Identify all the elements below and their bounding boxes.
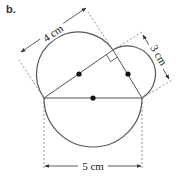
dim-label-ab: 5 cm (82, 160, 104, 172)
pythagorean-semicircles-diagram: 4 cm 3 cm 5 cm (0, 0, 179, 176)
center-dot-ac (76, 71, 81, 76)
right-angle-mark (106, 55, 117, 62)
dim-extension-ac (19, 12, 113, 98)
semicircle-cb (113, 46, 156, 98)
center-dot-cb (125, 71, 130, 76)
semicircle-ab (44, 98, 142, 147)
center-dot-ab (90, 95, 95, 100)
